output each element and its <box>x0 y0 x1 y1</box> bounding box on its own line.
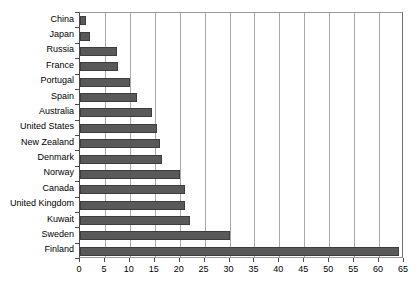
x-axis-tick <box>204 258 205 262</box>
gridline <box>379 13 380 257</box>
bar <box>80 16 86 25</box>
x-axis-tick-label: 10 <box>124 265 134 274</box>
y-axis-tick <box>75 227 79 228</box>
x-axis-tick-label: 0 <box>76 265 81 274</box>
x-axis-tick <box>328 258 329 262</box>
plot-area <box>79 12 403 258</box>
y-axis-tick <box>75 166 79 167</box>
y-axis-tick <box>75 120 79 121</box>
y-axis-tick <box>75 58 79 59</box>
x-axis-tick <box>353 258 354 262</box>
gridline <box>205 13 206 257</box>
y-axis-tick <box>75 150 79 151</box>
bar <box>80 93 137 102</box>
gridline <box>304 13 305 257</box>
category-label: China <box>50 15 74 24</box>
y-axis-tick <box>75 27 79 28</box>
category-label: Portugal <box>40 76 74 85</box>
bar <box>80 216 190 225</box>
category-label: Australia <box>39 107 74 116</box>
bar <box>80 201 185 210</box>
x-axis-tick-label: 15 <box>149 265 159 274</box>
bar <box>80 78 130 87</box>
x-axis-tick-label: 50 <box>323 265 333 274</box>
x-axis-tick-label: 55 <box>348 265 358 274</box>
y-axis-tick <box>75 243 79 244</box>
x-axis-tick-label: 65 <box>398 265 408 274</box>
x-axis-tick <box>278 258 279 262</box>
y-axis-tick <box>75 74 79 75</box>
x-axis-tick <box>253 258 254 262</box>
x-axis-tick-label: 25 <box>199 265 209 274</box>
x-axis-tick <box>229 258 230 262</box>
gridline <box>354 13 355 257</box>
x-axis-tick-label: 20 <box>174 265 184 274</box>
category-label: United Kingdom <box>10 199 74 208</box>
bar <box>80 124 157 133</box>
y-axis-tick <box>75 135 79 136</box>
category-label: France <box>46 61 74 70</box>
gridline <box>329 13 330 257</box>
x-axis-tick <box>403 258 404 262</box>
category-label: Japan <box>49 30 74 39</box>
category-label: United States <box>20 122 74 131</box>
x-axis-tick-label: 5 <box>101 265 106 274</box>
y-axis-tick <box>75 104 79 105</box>
y-axis-tick <box>75 89 79 90</box>
y-axis-tick <box>75 43 79 44</box>
category-label: Spain <box>51 92 74 101</box>
y-axis-tick <box>75 181 79 182</box>
bar-chart: ChinaJapanRussiaFrancePortugalSpainAustr… <box>0 0 417 284</box>
bar <box>80 231 230 240</box>
gridline <box>279 13 280 257</box>
x-axis-tick-label: 45 <box>298 265 308 274</box>
bar <box>80 32 90 41</box>
gridline <box>254 13 255 257</box>
x-axis-tick <box>179 258 180 262</box>
bar <box>80 155 162 164</box>
category-label: Canada <box>42 184 74 193</box>
x-axis-tick-label: 40 <box>273 265 283 274</box>
category-label: Russia <box>46 45 74 54</box>
x-axis-tick <box>79 258 80 262</box>
bar <box>80 247 399 256</box>
x-axis-tick-label: 60 <box>373 265 383 274</box>
bar <box>80 185 185 194</box>
y-axis-tick <box>75 258 79 259</box>
bar <box>80 62 118 71</box>
bar <box>80 139 160 148</box>
y-axis-tick <box>75 12 79 13</box>
category-label: Sweden <box>41 230 74 239</box>
x-axis-tick-label: 30 <box>224 265 234 274</box>
x-axis-tick <box>104 258 105 262</box>
y-axis-tick <box>75 197 79 198</box>
y-axis-tick <box>75 212 79 213</box>
category-label: Kuwait <box>47 215 74 224</box>
x-axis-tick <box>154 258 155 262</box>
bar <box>80 47 117 56</box>
x-axis-tick <box>303 258 304 262</box>
bar <box>80 108 152 117</box>
category-label: Denmark <box>37 153 74 162</box>
x-axis-tick <box>129 258 130 262</box>
category-label: New Zealand <box>21 138 74 147</box>
x-axis-tick-label: 35 <box>248 265 258 274</box>
category-label: Norway <box>43 168 74 177</box>
gridline <box>230 13 231 257</box>
bar <box>80 170 180 179</box>
x-axis-tick <box>378 258 379 262</box>
category-label: Finland <box>44 245 74 254</box>
